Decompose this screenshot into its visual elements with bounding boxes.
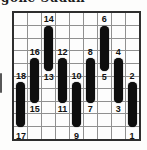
thermometer-capsule <box>86 58 95 103</box>
bar-top-label: 8 <box>81 47 99 58</box>
page-title-text: gone Sudan <box>1 0 85 5</box>
bar-bottom-label: 15 <box>26 104 44 115</box>
bar-bottom-label: 9 <box>68 131 86 142</box>
thermometer-capsule <box>128 82 137 127</box>
grid-line-horizontal <box>14 38 139 39</box>
thermometer-capsule <box>114 58 123 103</box>
bar-top-label: 12 <box>54 47 72 58</box>
bar-top-label: 6 <box>95 14 113 25</box>
bar-top-label: 14 <box>40 14 58 25</box>
grid-line-horizontal <box>14 25 139 26</box>
bar-bottom-label: 7 <box>81 104 99 115</box>
bar-bottom-label: 5 <box>95 72 113 83</box>
thermometer-capsule <box>30 58 39 103</box>
thermometer-capsule <box>16 82 25 127</box>
bar-top-label: 4 <box>109 47 127 58</box>
puzzle-grid: 181716151413121110987654321 <box>12 11 141 141</box>
bar-top-label: 2 <box>123 71 141 82</box>
bar-bottom-label: 17 <box>12 131 30 142</box>
bar-bottom-label: 1 <box>123 131 141 142</box>
scan-artifact <box>0 73 2 93</box>
scanned-puzzle-page: gone Sudan 181716151413121110987654321 <box>0 0 147 150</box>
thermometer-capsule <box>44 26 53 71</box>
page-title-clipped: gone Sudan <box>1 0 101 6</box>
thermometer-capsule <box>72 82 81 127</box>
bar-top-label: 16 <box>26 47 44 58</box>
thermometer-capsule <box>58 58 67 103</box>
bar-bottom-label: 13 <box>40 72 58 83</box>
thermometer-capsule <box>100 26 109 71</box>
bar-top-label: 18 <box>12 71 30 82</box>
bar-top-label: 10 <box>68 71 86 82</box>
bar-bottom-label: 3 <box>109 104 127 115</box>
bar-bottom-label: 11 <box>54 104 72 115</box>
